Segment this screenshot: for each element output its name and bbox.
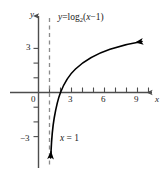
x-axis-label: x — [155, 95, 159, 104]
equation-paren-close: ) — [100, 12, 103, 22]
asymptote-variable-x: x — [60, 133, 64, 143]
x-tick-label-6: 6 — [101, 95, 106, 104]
x-axis-ticks — [50, 88, 149, 93]
x-tick-label-3: 3 — [68, 95, 73, 104]
log-function-graph-figure: y=log2(x−1) x = 1 x y 0 3 6 9 3 −3 — [0, 0, 163, 172]
y-tick-label-negative-3: −3 — [20, 134, 30, 143]
equation-arg-minus-one: −1 — [90, 12, 100, 22]
plot-canvas — [0, 0, 163, 172]
y-tick-label-3: 3 — [26, 43, 31, 52]
asymptote-equals-one: = 1 — [67, 133, 79, 143]
equation-log: log — [68, 12, 80, 22]
y-axis-label: y — [30, 10, 34, 19]
x-tick-label-9: 9 — [134, 95, 139, 104]
origin-tick-label: 0 — [31, 95, 36, 104]
curve-equation-label: y=log2(x−1) — [58, 13, 104, 23]
asymptote-label: x = 1 — [60, 134, 79, 144]
